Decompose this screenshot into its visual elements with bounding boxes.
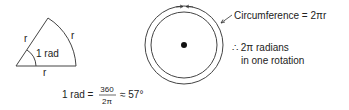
therefore-line-1: ∴ 2π radians: [232, 42, 289, 53]
formula-approx: ≈ 57°: [120, 89, 143, 100]
label-r-arc: r: [71, 30, 75, 41]
formula: 1 rad = 360 2π ≈ 57°: [62, 85, 143, 106]
center-dot: [181, 42, 187, 48]
formula-lhs: 1 rad =: [62, 89, 94, 100]
angle-arc: [27, 50, 36, 66]
circle-figure: Circumference = 2πr ∴ 2π radians in one …: [145, 5, 327, 84]
leader-line: [221, 15, 232, 23]
therefore-line-2: in one rotation: [241, 55, 304, 66]
formula-numerator: 360: [100, 85, 114, 94]
radian-diagram: r r r 1 rad 1 rad = 360 2π ≈ 57° Circumf…: [0, 0, 349, 110]
label-r-left: r: [24, 33, 28, 44]
sector-figure: r r r 1 rad: [16, 18, 76, 78]
circumference-label: Circumference = 2πr: [234, 10, 327, 21]
label-angle: 1 rad: [36, 48, 59, 59]
label-r-bottom: r: [43, 67, 47, 78]
formula-denominator: 2π: [102, 97, 112, 106]
